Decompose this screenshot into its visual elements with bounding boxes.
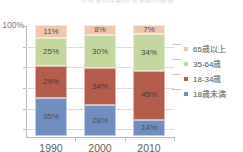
bar-segment-value-label: 34% — [92, 83, 108, 91]
bar-segment[interactable]: 25% — [35, 38, 67, 66]
bar-segment[interactable]: 14% — [133, 120, 165, 136]
legend-color-swatch — [184, 62, 188, 66]
stacked-bar[interactable]: 11%25%29%35% — [35, 25, 67, 136]
y-axis-tick — [23, 129, 26, 130]
legend-item[interactable]: 18-34歳 — [184, 71, 242, 86]
y-axis-tick — [23, 67, 26, 68]
y-axis-tick — [23, 88, 26, 89]
chart-title-clipped: 世帯主の年齢別世帯数の推移 — [0, 0, 243, 7]
bar-segment[interactable]: 35% — [35, 98, 67, 136]
bar-segment-value-label: 30% — [92, 48, 108, 56]
bar-segment-value-label: 25% — [43, 48, 59, 56]
bar-segment-value-label: 29% — [43, 78, 59, 86]
legend-color-swatch — [184, 47, 188, 51]
chart-screenshot: 世帯主の年齢別世帯数の推移 100% 11%25%29%35%8%30%34%2… — [0, 0, 243, 152]
legend-item-label: 18-34歳 — [193, 73, 221, 84]
bar-segment[interactable]: 7% — [133, 25, 165, 34]
y-axis-label-100: 100% — [0, 20, 24, 30]
y-axis-line — [26, 26, 27, 138]
bar-segment[interactable]: 8% — [84, 25, 116, 35]
x-axis-line — [26, 137, 174, 138]
x-axis-category-label: 1990 — [29, 142, 73, 152]
bar-segment-value-label: 14% — [141, 124, 157, 132]
x-axis-tick — [174, 137, 175, 141]
legend-color-swatch — [184, 92, 188, 96]
chart-title: 世帯主の年齢別世帯数の推移 — [62, 0, 192, 4]
legend-item[interactable]: 35-64歳 — [184, 56, 242, 71]
legend-color-swatch — [184, 77, 188, 81]
x-axis-tick — [75, 137, 76, 141]
x-axis-category-label: 2000 — [78, 142, 122, 152]
legend-leader-line — [172, 44, 181, 45]
legend-leader-line — [172, 74, 181, 75]
legend-item[interactable]: 18歳未満 — [184, 86, 242, 101]
legend-item-label: 35-64歳 — [193, 58, 221, 69]
bar-segment[interactable]: 34% — [133, 34, 165, 71]
bar-segment-value-label: 11% — [43, 28, 58, 36]
bar-segment[interactable]: 45% — [133, 71, 165, 119]
legend-item-label: 18歳未満 — [193, 88, 226, 99]
bar-segment-value-label: 28% — [92, 117, 108, 125]
bar-segment[interactable]: 29% — [35, 66, 67, 98]
bar-segment-value-label: 35% — [43, 113, 59, 121]
x-axis-category-label: 2010 — [127, 142, 171, 152]
y-axis-tick — [23, 109, 26, 110]
stacked-bar[interactable]: 8%30%34%28% — [84, 25, 116, 136]
y-axis-tick — [23, 47, 26, 48]
legend-leader-line — [172, 59, 181, 60]
bar-segment[interactable]: 28% — [84, 105, 116, 136]
bar-segment[interactable]: 11% — [35, 25, 67, 38]
bar-segment-value-label: 8% — [94, 26, 106, 34]
stacked-bar[interactable]: 7%34%45%14% — [133, 25, 165, 136]
x-axis-tick — [125, 137, 126, 141]
bar-segment-value-label: 34% — [141, 49, 157, 57]
chart-legend: 65歳以上35-64歳18-34歳18歳未満 — [184, 41, 242, 101]
bar-segment[interactable]: 34% — [84, 68, 116, 105]
legend-item[interactable]: 65歳以上 — [184, 41, 242, 56]
legend-leader-line — [172, 89, 181, 90]
bar-segment-value-label: 7% — [143, 26, 155, 34]
plot-area: 100% 11%25%29%35%8%30%34%28%7%34%45%14% … — [26, 26, 174, 137]
bar-segment-value-label: 45% — [141, 91, 157, 99]
legend-item-label: 65歳以上 — [193, 43, 226, 54]
bar-segment[interactable]: 30% — [84, 35, 116, 68]
